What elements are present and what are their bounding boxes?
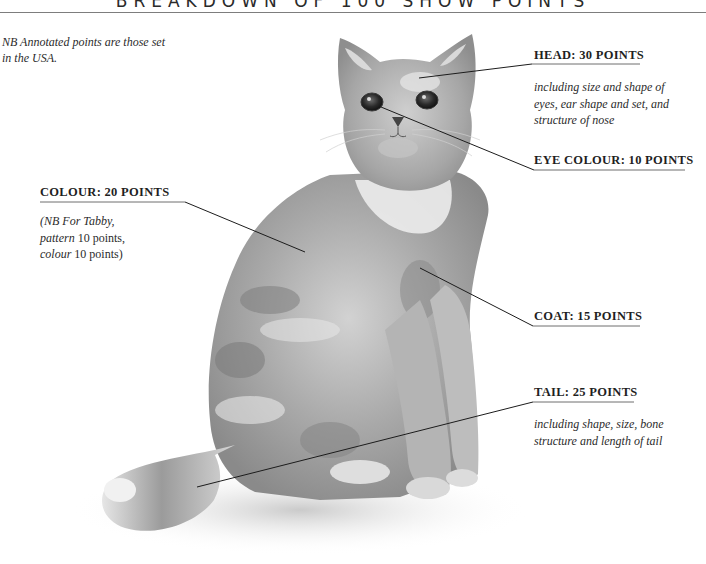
- label-eye-colour: EYE COLOUR: 10 POINTS: [534, 153, 693, 168]
- cat-hind-paw: [330, 460, 390, 484]
- label-colour: COLOUR: 20 POINTS: [40, 185, 169, 200]
- cat-paw: [406, 477, 450, 499]
- label-tail: TAIL: 25 POINTS: [534, 385, 638, 400]
- desc-colour-part: colour: [40, 247, 71, 261]
- desc-colour-part: pattern: [40, 231, 75, 245]
- label-coat: COAT: 15 POINTS: [534, 309, 642, 324]
- desc-colour-part: 10 points): [71, 247, 122, 261]
- label-head: HEAD: 30 POINTS: [534, 48, 644, 63]
- cat-eye-right: [416, 91, 438, 109]
- desc-colour-part: (NB For Tabby,: [40, 214, 115, 228]
- cat-paw: [446, 469, 478, 487]
- desc-tail: including shape, size, bone structure an…: [534, 416, 694, 449]
- tail-tip: [104, 478, 136, 502]
- desc-colour-part: 10 points,: [75, 231, 125, 245]
- desc-head: including size and shape of eyes, ear sh…: [534, 79, 684, 129]
- cat-eye-left: [361, 93, 383, 111]
- desc-colour: (NB For Tabby, pattern 10 points, colour…: [40, 213, 180, 263]
